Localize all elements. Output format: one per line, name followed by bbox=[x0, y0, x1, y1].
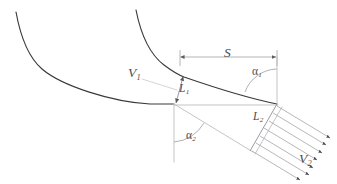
label-inlet-velocity-symbol: V bbox=[128, 65, 136, 80]
label-outlet-velocity: V2 bbox=[299, 152, 311, 166]
label-inlet-angle-subscript: 2 bbox=[192, 135, 196, 143]
label-outlet-throat-subscript: 2 bbox=[260, 116, 264, 124]
label-inlet-velocity-subscript: 1 bbox=[137, 73, 141, 82]
outlet-velocity-profile bbox=[252, 106, 330, 180]
alpha2-flow-ray bbox=[174, 104, 253, 152]
label-pitch-symbol: S bbox=[224, 45, 231, 60]
label-outlet-angle: α1 bbox=[252, 66, 262, 78]
label-inlet-throat-symbol: L bbox=[179, 82, 185, 94]
label-outlet-throat: L2 bbox=[253, 111, 263, 123]
label-pitch: S bbox=[224, 46, 231, 60]
velocity-arrow bbox=[273, 113, 326, 145]
velocity-arrow bbox=[277, 106, 330, 138]
cascade-diagram-svg bbox=[0, 0, 337, 184]
velocity-arrow bbox=[269, 121, 322, 153]
label-inlet-velocity: V1 bbox=[128, 66, 140, 80]
inlet-velocity-leader bbox=[142, 79, 177, 90]
diagram-canvas: V1 L1 S α1 α2 L2 V2 bbox=[0, 0, 337, 184]
label-outlet-velocity-subscript: 2 bbox=[308, 159, 312, 168]
label-inlet-throat: L1 bbox=[179, 83, 189, 95]
label-inlet-throat-subscript: 1 bbox=[186, 88, 190, 96]
label-outlet-velocity-symbol: V bbox=[299, 151, 307, 166]
label-outlet-angle-subscript: 1 bbox=[258, 71, 262, 79]
label-inlet-angle: α2 bbox=[186, 130, 196, 142]
lower-blade-curve bbox=[16, 12, 174, 104]
label-outlet-throat-symbol: L bbox=[253, 110, 259, 122]
